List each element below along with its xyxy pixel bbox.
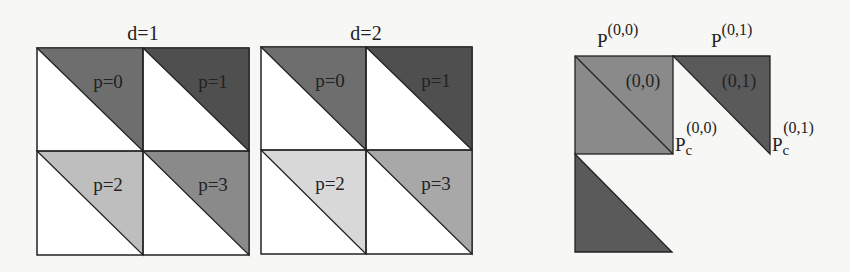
- block-label: (0,0): [626, 71, 661, 92]
- block-label: (0,1): [722, 71, 757, 92]
- top-label-p00: P(0,0): [597, 21, 638, 51]
- diagram-canvas: d=1 p=0 p=1 p=2 p=3 d=2 p=0 p=1 p=2 p=3 …: [0, 0, 850, 272]
- cell-label: p=3: [198, 174, 228, 195]
- cell-label: p=1: [421, 70, 451, 91]
- top-label-p01: P(0,1): [711, 21, 752, 51]
- cell-label: p=1: [198, 71, 228, 92]
- panel-d1: d=1 p=0 p=1 p=2 p=3: [37, 22, 249, 255]
- cell-label: p=2: [93, 174, 123, 195]
- corner-label-pc00: Pc(0,0): [675, 119, 717, 158]
- panel-title: d=1: [127, 22, 158, 44]
- panel-d2: d=2 p=0 p=1 p=2 p=3: [261, 22, 472, 254]
- cell-label: p=3: [421, 173, 451, 194]
- cell-label: p=2: [315, 173, 345, 194]
- cell-label: p=0: [315, 70, 345, 91]
- cell-label: p=0: [93, 71, 123, 92]
- panel-title: d=2: [350, 22, 381, 44]
- block-diagram: (0,0) (0,1) P(0,0) P(0,1) Pc(0,0) Pc(0,1…: [575, 21, 814, 252]
- corner-label-pc01: Pc(0,1): [772, 119, 814, 158]
- block-10-triangle: [575, 154, 672, 252]
